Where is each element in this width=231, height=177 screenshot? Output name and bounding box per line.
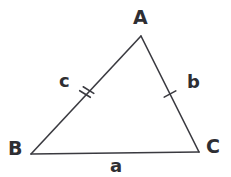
vertex-label-a: A [133,8,148,27]
side-label-b: b [187,73,200,91]
side-a-line [31,152,199,154]
side-b-tick-1 [164,91,176,97]
vertex-label-c: C [206,137,220,156]
side-label-a: a [110,157,122,175]
side-label-c: c [59,72,70,90]
vertex-label-b: B [8,139,23,158]
triangle-figure: A B C a b c [0,0,231,177]
side-b-tick-group [164,91,176,97]
